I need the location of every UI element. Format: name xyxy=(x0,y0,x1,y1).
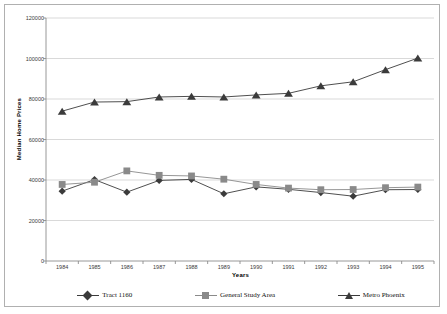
square-marker xyxy=(414,184,421,191)
square-marker xyxy=(350,186,357,193)
diamond-marker xyxy=(350,193,357,200)
triangle-marker xyxy=(413,55,422,62)
square-marker xyxy=(220,176,227,183)
square-marker xyxy=(188,173,195,180)
square-marker xyxy=(382,184,389,191)
chart-container: Median Home Prices Years 020000400006000… xyxy=(0,0,447,314)
square-marker xyxy=(123,167,130,174)
square-marker xyxy=(156,172,163,179)
legend-key xyxy=(338,291,360,300)
legend-item[interactable]: General Study Area xyxy=(195,291,275,300)
square-marker xyxy=(317,186,324,193)
legend-item-label: Metro Phoenix xyxy=(362,291,405,299)
diamond-marker xyxy=(59,188,66,195)
square-marker xyxy=(253,181,260,188)
triangle-marker xyxy=(381,66,390,73)
square-marker xyxy=(59,181,66,188)
chart-legend: Tract 1160General Study AreaMetro Phoeni… xyxy=(46,288,436,302)
square-marker xyxy=(285,185,292,192)
square-marker xyxy=(91,179,98,186)
diamond-marker xyxy=(84,292,91,299)
legend-item-label: General Study Area xyxy=(219,291,275,299)
triangle-marker xyxy=(58,108,67,115)
square-marker xyxy=(202,292,209,299)
diamond-marker xyxy=(220,190,227,197)
legend-key xyxy=(195,291,217,300)
legend-item-label: Tract 1160 xyxy=(101,291,132,299)
legend-item[interactable]: Tract 1160 xyxy=(77,291,132,300)
legend-item[interactable]: Metro Phoenix xyxy=(338,291,405,300)
legend-key xyxy=(77,291,99,300)
triangle-marker xyxy=(345,292,353,299)
diamond-marker xyxy=(123,189,130,196)
plot-area xyxy=(0,0,447,314)
series-line-triangle xyxy=(62,58,418,111)
